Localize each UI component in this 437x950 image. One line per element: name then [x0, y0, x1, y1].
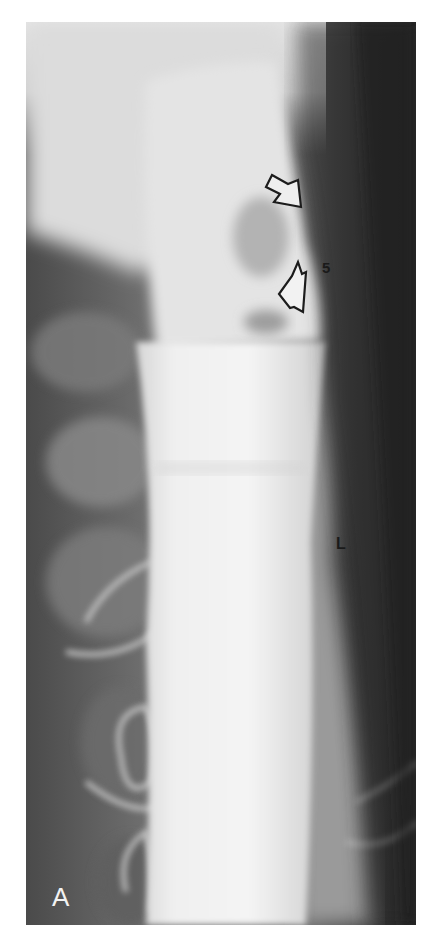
label-L: L — [336, 535, 346, 553]
radiograph-rendering — [26, 22, 416, 925]
radiograph-image: 5 L A — [26, 22, 416, 925]
panel-letter: A — [52, 882, 69, 913]
label-5: 5 — [322, 259, 330, 276]
